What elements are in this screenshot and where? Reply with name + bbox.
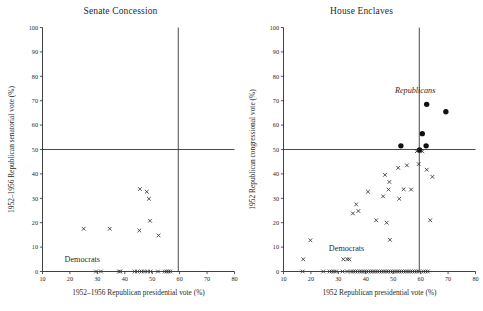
y-tick-label: 100 — [29, 24, 38, 31]
x-tick-label: 80 — [231, 275, 237, 282]
x-tick-label: 40 — [363, 275, 369, 282]
group-label-republicans: Republicans — [394, 86, 435, 95]
data-point-x — [425, 168, 429, 172]
x-axis-label: 1952 Republican presidential vote (%) — [322, 288, 437, 297]
y-tick-label: 70 — [273, 97, 279, 104]
data-point-x — [396, 166, 400, 170]
y-tick-label: 80 — [32, 73, 38, 80]
y-tick-label: 10 — [273, 243, 279, 250]
y-tick-label: 90 — [273, 48, 279, 55]
panel-house-enclaves: House Enclaves 0102030405060708090100102… — [241, 0, 482, 311]
data-point-x — [347, 257, 351, 261]
data-point-x — [387, 188, 391, 192]
data-point-circle — [443, 109, 448, 114]
data-point-x — [138, 187, 142, 191]
data-point-x — [147, 197, 151, 201]
x-tick-label: 60 — [177, 275, 183, 282]
data-point-x — [357, 209, 361, 213]
data-point-x — [381, 194, 385, 198]
data-point-circle — [424, 102, 429, 107]
data-point-x — [341, 257, 345, 261]
group-label-democrats: Democrats — [329, 244, 364, 253]
y-tick-label: 10 — [32, 243, 38, 250]
y-tick-label: 90 — [32, 48, 38, 55]
data-point-x — [137, 229, 141, 233]
y-tick-label: 0 — [276, 268, 279, 275]
data-point-x — [351, 212, 355, 216]
panel-senate-concession: Senate Concession 0102030405060708090100… — [0, 0, 241, 311]
y-tick-label: 20 — [273, 219, 279, 226]
data-point-x — [383, 173, 387, 177]
y-tick-label: 50 — [273, 146, 279, 153]
data-point-x — [108, 227, 112, 231]
x-tick-label: 60 — [418, 275, 424, 282]
group-label-democrats: Democrats — [65, 255, 100, 264]
data-point-x — [301, 257, 305, 261]
plot-area-house: 01020304050607080901001020304050607080De… — [241, 0, 482, 311]
y-tick-label: 20 — [32, 219, 38, 226]
y-tick-label: 30 — [273, 195, 279, 202]
data-point-x — [409, 188, 413, 192]
data-point-x — [354, 203, 358, 207]
data-point-x — [82, 227, 86, 231]
data-point-x — [148, 219, 152, 223]
x-tick-label: 30 — [335, 275, 341, 282]
data-point-x — [309, 238, 313, 242]
y-tick-label: 60 — [273, 121, 279, 128]
data-point-x — [402, 187, 406, 191]
data-point-circle — [423, 143, 428, 148]
data-point-x — [388, 180, 392, 184]
figure-two-panel-scatter: Senate Concession 0102030405060708090100… — [0, 0, 483, 311]
x-tick-label: 50 — [390, 275, 396, 282]
x-tick-label: 70 — [204, 275, 210, 282]
x-tick-label: 20 — [67, 275, 73, 282]
y-tick-label: 0 — [35, 268, 38, 275]
y-tick-label: 60 — [32, 121, 38, 128]
data-point-circle — [398, 143, 403, 148]
series-democrats — [301, 149, 434, 273]
x-tick-label: 70 — [445, 275, 451, 282]
data-point-x — [431, 175, 435, 179]
x-tick-label: 50 — [149, 275, 155, 282]
data-point-circle — [420, 131, 425, 136]
x-axis-label: 1952–1956 Republican presidential vote (… — [72, 288, 205, 297]
data-point-x — [366, 190, 370, 194]
x-tick-label: 80 — [472, 275, 478, 282]
data-point-x — [385, 221, 389, 225]
y-axis-label: 1952–1956 Republican senatorial vote (%) — [7, 86, 16, 213]
x-tick-label: 20 — [308, 275, 314, 282]
y-tick-label: 80 — [273, 73, 279, 80]
x-tick-label: 30 — [94, 275, 100, 282]
y-tick-label: 40 — [273, 170, 279, 177]
data-point-x — [374, 218, 378, 222]
data-point-x — [388, 238, 392, 242]
y-tick-label: 30 — [32, 195, 38, 202]
y-tick-label: 50 — [32, 146, 38, 153]
x-tick-label: 10 — [280, 275, 286, 282]
data-point-x — [428, 218, 432, 222]
x-tick-label: 10 — [39, 275, 45, 282]
y-tick-label: 100 — [270, 24, 279, 31]
y-tick-label: 40 — [32, 170, 38, 177]
y-tick-label: 70 — [32, 97, 38, 104]
series-republicans — [398, 102, 448, 153]
data-point-x — [417, 162, 421, 166]
data-point-x — [145, 190, 149, 194]
data-point-x — [157, 234, 161, 238]
y-axis-label: 1952 Republican congressional vote (%) — [248, 89, 257, 210]
data-point-x — [397, 197, 401, 201]
plot-area-senate: 01020304050607080901001020304050607080De… — [0, 0, 241, 311]
data-point-x — [405, 164, 409, 168]
x-tick-label: 40 — [122, 275, 128, 282]
